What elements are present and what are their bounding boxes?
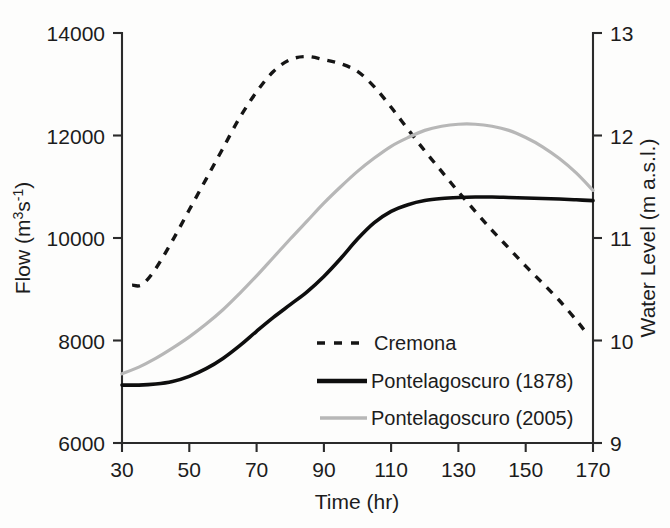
series-line-pontelagoscuro-1878 — [122, 197, 593, 385]
x-ticklabel-50: 50 — [178, 458, 201, 481]
y-axis-right-title: Water Level (m a.s.l.) — [636, 139, 659, 338]
y-ticklabel-8000: 8000 — [58, 330, 105, 353]
y-axis-left-title-sup1: 3 — [10, 212, 26, 220]
x-ticklabel-130: 130 — [441, 458, 476, 481]
y-axis-left-title-part2: s — [11, 201, 34, 212]
x-ticklabel-150: 150 — [508, 458, 543, 481]
chart-figure: 14000 12000 10000 8000 6000 13 12 11 10 … — [0, 0, 670, 528]
y-axis-left-title: Flow (m3s-1) — [10, 182, 34, 294]
y-ticklabel-10000: 10000 — [47, 227, 105, 250]
legend-label-pontelagoscuro-2005: Pontelagoscuro (2005) — [371, 407, 573, 429]
y-ticklabel-12000: 12000 — [47, 125, 105, 148]
legend: Cremona Pontelagoscuro (1878) Pontelagos… — [317, 332, 573, 429]
x-ticklabel-110: 110 — [374, 458, 407, 481]
y2-ticklabel-13: 13 — [610, 22, 633, 45]
series-group — [122, 57, 593, 386]
y-axis-left-title-part3: ) — [11, 182, 34, 189]
x-ticklabel-70: 70 — [245, 458, 268, 481]
y-axis-right-ticks: 13 12 11 10 9 — [593, 22, 633, 455]
legend-label-pontelagoscuro-1878: Pontelagoscuro (1878) — [371, 370, 573, 392]
y2-ticklabel-11: 11 — [610, 227, 632, 250]
x-ticklabel-170: 170 — [575, 458, 610, 481]
series-line-cremona — [132, 57, 586, 333]
y-axis-left-title-part1: Flow (m — [11, 220, 34, 295]
legend-label-cremona: Cremona — [374, 332, 457, 354]
y2-ticklabel-9: 9 — [610, 432, 622, 455]
y-ticklabel-6000: 6000 — [58, 432, 105, 455]
y2-ticklabel-10: 10 — [610, 330, 633, 353]
series-line-pontelagoscuro-2005 — [122, 124, 593, 374]
x-ticklabel-30: 30 — [110, 458, 133, 481]
x-ticklabel-90: 90 — [312, 458, 335, 481]
y-axis-left-title-sup2: -1 — [10, 189, 26, 202]
y-ticklabel-14000: 14000 — [47, 22, 105, 45]
y2-ticklabel-12: 12 — [610, 125, 633, 148]
line-chart-canvas: 14000 12000 10000 8000 6000 13 12 11 10 … — [0, 0, 670, 528]
x-axis-ticks: 30 50 70 90 110 130 150 170 — [110, 443, 610, 481]
x-axis-title: Time (hr) — [315, 490, 399, 513]
y-axis-left-ticks: 14000 12000 10000 8000 6000 — [47, 22, 122, 455]
